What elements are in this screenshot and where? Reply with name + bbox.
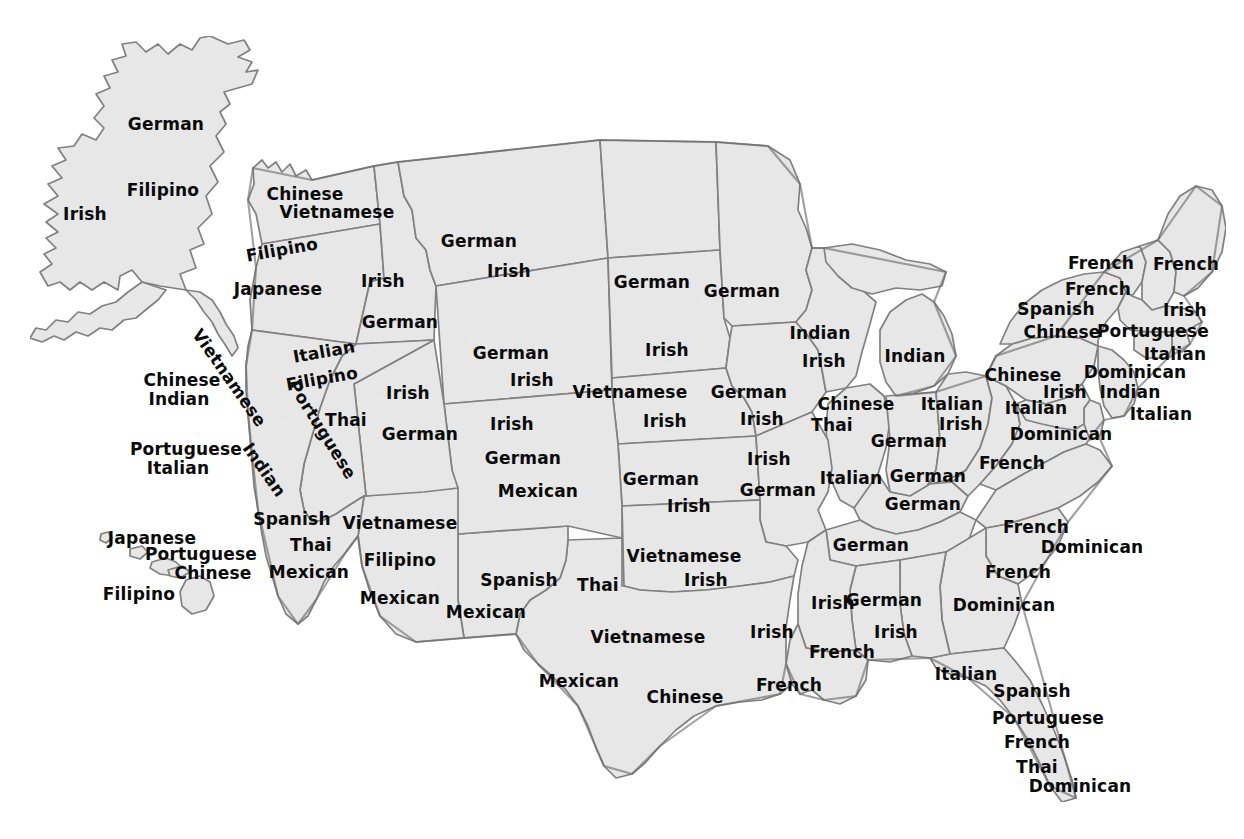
ancestry-label: Irish [684,572,728,589]
ancestry-label: Thai [325,412,367,429]
ancestry-label: Irish [386,385,430,402]
ancestry-label: Filipino [127,182,199,199]
ancestry-label: Filipino [103,586,175,603]
ancestry-label: Chinese [817,396,894,413]
ancestry-label: Vietnamese [627,548,742,565]
ancestry-label: Chinese [143,372,220,389]
ancestry-label: Japanese [234,281,322,298]
ancestry-label: Irish [63,206,107,223]
ancestry-label: German [128,116,204,133]
ancestry-label: Thai [811,417,853,434]
ancestry-label: Portuguese [145,546,257,563]
ancestry-label: Irish [802,353,846,370]
ancestry-label: German [846,592,922,609]
ancestry-label: German [885,496,961,513]
ancestry-label: German [740,482,816,499]
ancestry-label: Italian [1005,400,1068,417]
ancestry-label: French [809,644,875,661]
ancestry-label: French [1065,281,1131,298]
alaska-peninsula [30,282,166,342]
ancestry-label: French [979,455,1045,472]
ancestry-label: Italian [1130,406,1193,423]
ancestry-label: Mexican [360,590,440,607]
ancestry-label: Chinese [174,565,251,582]
ancestry-label: German [871,433,947,450]
ancestry-label: Indian [148,391,209,408]
ancestry-label: Italian [921,396,984,413]
state-alaska [40,36,258,290]
ancestry-label: Dominican [1084,364,1187,381]
ancestry-label: German [441,233,517,250]
ancestry-label: German [473,345,549,362]
ancestry-label: French [1003,519,1069,536]
ancestry-label: German [623,471,699,488]
ancestry-label: Dominican [1010,426,1113,443]
ancestry-label: Portuguese [130,441,242,458]
ancestry-label: Portuguese [1097,323,1209,340]
ancestry-label: Mexican [269,564,349,581]
ancestry-label: Irish [667,498,711,515]
ancestry-label: French [1004,734,1070,751]
ancestry-label: Chinese [646,689,723,706]
ancestry-label: Italian [1144,346,1207,363]
ancestry-label: German [704,283,780,300]
ancestry-label: Italian [147,460,210,477]
ancestry-label: Irish [1163,302,1207,319]
ancestry-label: Vietnamese [573,384,688,401]
ancestry-label: German [382,426,458,443]
ancestry-label: Filipino [364,552,436,569]
ancestry-label: French [985,564,1051,581]
ancestry-label: Irish [510,372,554,389]
ancestry-label: Vietnamese [280,204,395,221]
ancestry-label: Mexican [498,483,578,500]
state-north-dakota [600,140,720,258]
ancestry-label: Mexican [539,673,619,690]
ancestry-label: Irish [750,624,794,641]
ancestry-label: Mexican [446,604,526,621]
ancestry-label: Spanish [253,511,330,528]
ancestry-label: Irish [939,416,983,433]
ancestry-label: French [1068,255,1134,272]
ancestry-label: Thai [290,537,332,554]
ancestry-label: French [1153,256,1219,273]
ancestry-label: Vietnamese [591,629,706,646]
ancestry-label: German [890,468,966,485]
ancestry-label: Irish [740,411,784,428]
ancestry-label: French [756,677,822,694]
ancestry-label: Thai [1016,759,1058,776]
ancestry-label: Thai [577,577,619,594]
ancestry-label: Irish [361,273,405,290]
ancestry-label: Dominican [1041,539,1144,556]
ancestry-label: Italian [935,666,998,683]
ancestry-label: Irish [645,342,689,359]
ancestry-label: Portuguese [992,710,1104,727]
ancestry-label: Irish [874,624,918,641]
ancestry-label: Irish [643,413,687,430]
ancestry-label: Spanish [1017,301,1094,318]
ancestry-label: Irish [490,416,534,433]
ancestry-label: German [485,450,561,467]
ancestry-label: Spanish [480,572,557,589]
ancestry-label: German [711,384,787,401]
ancestry-label: Indian [1099,384,1160,401]
ancestry-label: Irish [487,263,531,280]
ancestry-label: Italian [820,470,883,487]
ancestry-label: Dominican [1029,778,1132,795]
ancestry-label: Vietnamese [343,515,458,532]
ancestry-label: German [833,537,909,554]
ancestry-label: Indian [789,325,850,342]
us-ancestry-map: GermanFilipinoIrishJapanesePortugueseChi… [0,0,1244,839]
ancestry-label: Chinese [266,186,343,203]
ancestry-label: German [614,274,690,291]
ancestry-label: Chinese [1023,324,1100,341]
ancestry-label: Irish [747,451,791,468]
ancestry-label: German [362,314,438,331]
ancestry-label: Indian [884,348,945,365]
ancestry-label: Dominican [953,597,1056,614]
ancestry-label: Spanish [993,683,1070,700]
